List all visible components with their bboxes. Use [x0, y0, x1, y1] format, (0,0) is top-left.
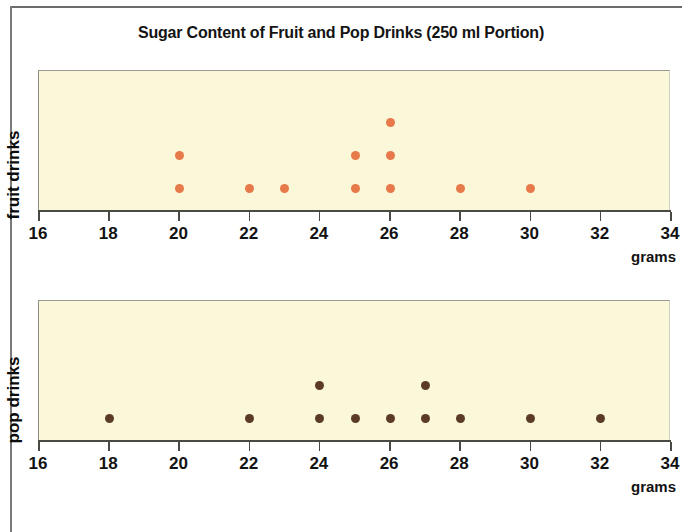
x-tick-label-pop-22: 22	[229, 454, 269, 474]
data-point	[351, 184, 360, 193]
x-tick-pop-16	[38, 442, 40, 451]
x-tick-label-fruit-28: 28	[439, 224, 479, 244]
y-axis-label-pop-drinks: pop drinks	[4, 325, 28, 475]
x-tick-label-fruit-16: 16	[18, 224, 58, 244]
x-tick-pop-30	[530, 442, 532, 451]
data-point	[351, 151, 360, 160]
x-tick-pop-18	[108, 442, 110, 451]
x-tick-pop-22	[249, 442, 251, 451]
data-point	[245, 184, 254, 193]
data-point	[175, 151, 184, 160]
x-tick-fruit-26	[389, 212, 391, 221]
x-tick-fruit-30	[530, 212, 532, 221]
x-tick-fruit-20	[178, 212, 180, 221]
panel-pop-drinks: pop drinks 16182022242628303234 grams	[0, 290, 682, 530]
x-tick-fruit-34	[670, 212, 672, 221]
x-tick-pop-26	[389, 442, 391, 451]
x-tick-pop-20	[178, 442, 180, 451]
x-tick-fruit-32	[600, 212, 602, 221]
data-point	[386, 118, 395, 127]
x-tick-label-pop-32: 32	[580, 454, 620, 474]
data-point	[386, 414, 395, 423]
x-axis-units-fruit: grams	[631, 248, 676, 265]
x-tick-fruit-16	[38, 212, 40, 221]
data-point	[351, 414, 360, 423]
x-tick-label-pop-26: 26	[369, 454, 409, 474]
x-axis-line-pop	[38, 440, 671, 442]
x-tick-fruit-18	[108, 212, 110, 221]
data-point	[596, 414, 605, 423]
x-tick-label-fruit-20: 20	[158, 224, 198, 244]
data-point	[175, 184, 184, 193]
x-tick-label-fruit-18: 18	[88, 224, 128, 244]
x-tick-pop-32	[600, 442, 602, 451]
plot-area-pop-drinks	[38, 300, 670, 440]
data-point	[526, 414, 535, 423]
x-tick-label-fruit-34: 34	[650, 224, 682, 244]
x-tick-pop-28	[459, 442, 461, 451]
data-point	[386, 184, 395, 193]
data-point	[526, 184, 535, 193]
x-tick-label-pop-30: 30	[510, 454, 550, 474]
x-tick-fruit-28	[459, 212, 461, 221]
data-point	[421, 381, 430, 390]
x-tick-label-pop-20: 20	[158, 454, 198, 474]
data-point	[245, 414, 254, 423]
x-axis-units-pop: grams	[631, 478, 676, 495]
x-tick-pop-24	[319, 442, 321, 451]
dotplot-figure: Sugar Content of Fruit and Pop Drinks (2…	[0, 0, 682, 532]
data-point	[386, 151, 395, 160]
x-tick-label-fruit-32: 32	[580, 224, 620, 244]
data-point	[105, 414, 114, 423]
data-point	[421, 414, 430, 423]
data-point	[280, 184, 289, 193]
plot-area-fruit-drinks	[38, 70, 670, 210]
x-tick-label-fruit-30: 30	[510, 224, 550, 244]
x-tick-fruit-22	[249, 212, 251, 221]
x-tick-label-fruit-24: 24	[299, 224, 339, 244]
page-title: Sugar Content of Fruit and Pop Drinks (2…	[0, 24, 682, 42]
data-point	[456, 184, 465, 193]
x-tick-label-pop-34: 34	[650, 454, 682, 474]
x-tick-label-fruit-22: 22	[229, 224, 269, 244]
data-point	[456, 414, 465, 423]
x-axis-line-fruit	[38, 210, 671, 212]
x-tick-label-fruit-26: 26	[369, 224, 409, 244]
x-tick-label-pop-24: 24	[299, 454, 339, 474]
data-point	[315, 381, 324, 390]
page-border-top	[10, 6, 682, 8]
x-tick-fruit-24	[319, 212, 321, 221]
x-tick-label-pop-28: 28	[439, 454, 479, 474]
x-tick-pop-34	[670, 442, 672, 451]
x-tick-label-pop-18: 18	[88, 454, 128, 474]
data-point	[315, 414, 324, 423]
panel-fruit-drinks: fruit drinks 16182022242628303234 grams	[0, 60, 682, 285]
x-tick-label-pop-16: 16	[18, 454, 58, 474]
